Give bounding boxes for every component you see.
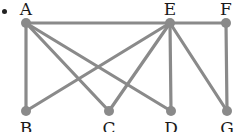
node-D [166,106,176,116]
graph-diagram [0,0,236,132]
node-label-G: G [220,120,234,132]
edge-F-G [226,23,227,111]
node-label-D: D [164,120,178,132]
node-A [21,18,31,28]
node-G [222,106,232,116]
node-label-E: E [164,1,176,18]
node-F [221,18,231,28]
node-B [21,106,31,116]
node-E [165,18,175,28]
edge-E-D [170,23,171,111]
edge-E-C [109,23,170,111]
edge-E-G [170,23,227,111]
edges-group [26,23,227,111]
node-label-B: B [20,120,33,132]
node-label-C: C [102,120,115,132]
node-label-F: F [220,1,232,18]
node-label-A: A [20,1,32,18]
node-C [104,106,114,116]
